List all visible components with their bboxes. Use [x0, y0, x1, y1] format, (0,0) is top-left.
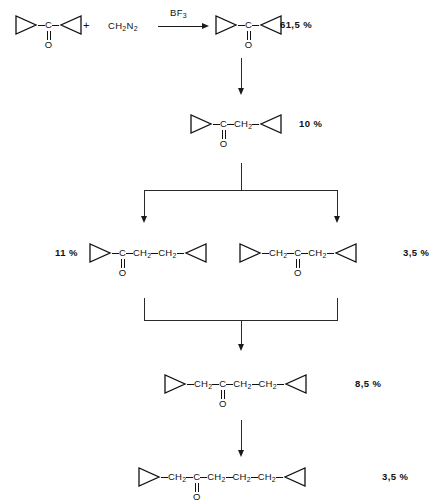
branch-left-shaft: [144, 190, 145, 218]
bond-line: [226, 477, 233, 478]
arrow-1-shaft: [241, 58, 242, 90]
coreactant-label: CH2N2: [108, 21, 138, 31]
product-3-structure: C O CH2 CH2: [88, 242, 208, 264]
yield-product-1: 61,5 %: [280, 20, 312, 30]
cyclopropyl-icon: [259, 113, 283, 135]
carbonyl-group: C O: [119, 248, 126, 258]
bond-line: [262, 253, 269, 254]
methylene-label: CH2: [233, 379, 251, 389]
methylene-label: CH2: [207, 472, 225, 482]
arrow-final-head: [238, 450, 244, 457]
yield-product-4: 3,5 %: [403, 248, 429, 258]
bond-line: [213, 124, 220, 125]
molecule-dicyclopropyl-ketone-start: C O: [14, 14, 83, 36]
yield-product-2: 10 %: [299, 119, 322, 129]
molecule-cyclopropyl-2-cyclopropylethyl-ketone: C O CH2 CH2: [88, 242, 208, 264]
carbonyl-group: C O: [220, 119, 227, 129]
bond-line: [327, 253, 334, 254]
methylene-label: CH2: [133, 248, 151, 258]
coreactant-diazomethane: CH2N2: [108, 21, 138, 31]
methylene-label: CH2: [168, 472, 186, 482]
oxygen-label: O: [294, 268, 301, 278]
methylene-label: CH2: [158, 248, 176, 258]
bond-line: [251, 477, 258, 478]
carbonyl-group: C O: [219, 379, 226, 389]
product-2-structure: C O CH2: [189, 113, 283, 135]
oxygen-label: O: [220, 139, 227, 149]
oxygen-label: O: [245, 40, 252, 50]
product-6-structure: CH2 C O CH2 CH2 CH2: [137, 466, 307, 488]
carbon-label: C: [193, 471, 200, 482]
bond-line: [112, 253, 119, 254]
molecule-dicyclopropyl-ketone: C O: [214, 14, 283, 36]
bond-line: [276, 477, 283, 478]
cyclopropyl-icon: [88, 242, 112, 264]
yield-product-5: 8,5 %: [355, 379, 381, 389]
cyclopropyl-icon: [238, 242, 262, 264]
cyclopropyl-icon: [14, 14, 38, 36]
branch-left-arrow-head: [141, 216, 147, 223]
bond-line: [252, 25, 259, 26]
bond-line: [301, 253, 308, 254]
cyclopropyl-icon: [284, 373, 308, 395]
bond-line: [151, 253, 158, 254]
yield-product-6: 3,5 %: [382, 472, 408, 482]
molecule-1-5-dicyclopropylpentan-2-one: CH2 C O CH2 CH2 CH2: [137, 466, 307, 488]
arrow-1-head: [238, 88, 244, 95]
branch-stem: [241, 163, 242, 190]
bond-line: [52, 25, 59, 26]
oxygen-label: O: [193, 492, 200, 502]
reaction-scheme-canvas: C O + CH2N2 BF3 C: [0, 0, 444, 502]
cyclopropyl-icon: [283, 466, 307, 488]
bond-line: [161, 477, 168, 478]
bond-line: [38, 25, 45, 26]
bond-line: [277, 384, 284, 385]
bond-line: [226, 384, 233, 385]
bond-line: [200, 477, 207, 478]
branch-right-arrow-head: [334, 216, 340, 223]
carbon-label: C: [245, 19, 252, 30]
carbonyl-group: C O: [294, 248, 301, 258]
carbonyl-group: C O: [193, 472, 200, 482]
arrow-final-shaft: [241, 420, 242, 452]
methylene-label: CH2: [259, 379, 277, 389]
methylene-label: CH2: [194, 379, 212, 389]
methylene-label: CH2: [308, 248, 326, 258]
methylene-label: CH2: [269, 248, 287, 258]
methylene-label: CH2: [258, 472, 276, 482]
reagent-label-bf3: BF3: [170, 8, 187, 18]
branch-bar: [144, 190, 338, 191]
bond-line: [187, 384, 194, 385]
starting-material-structure: C O: [14, 14, 83, 36]
plus-sign: +: [83, 20, 89, 31]
bond-line: [252, 384, 259, 385]
cyclopropyl-icon: [137, 466, 161, 488]
cyclopropyl-icon: [163, 373, 187, 395]
carbon-label: C: [294, 247, 301, 258]
yield-product-3: 11 %: [55, 248, 78, 258]
cyclopropyl-icon: [59, 14, 83, 36]
cyclopropyl-icon: [189, 113, 213, 135]
bond-line: [238, 25, 245, 26]
carbon-label: C: [219, 378, 226, 389]
oxygen-label: O: [119, 268, 126, 278]
cyclopropyl-icon: [184, 242, 208, 264]
oxygen-label: O: [45, 40, 52, 50]
carbon-label: C: [220, 118, 227, 129]
bond-line: [177, 253, 184, 254]
bond-line: [126, 253, 133, 254]
reaction-arrow-shaft: [158, 26, 203, 27]
merge-right-shaft: [337, 298, 338, 320]
cyclopropyl-icon: [334, 242, 358, 264]
merge-left-shaft: [144, 298, 145, 320]
plus-label: +: [83, 20, 89, 31]
reaction-arrow-head: [202, 23, 209, 29]
carbonyl-group: C O: [245, 20, 252, 30]
bond-line: [227, 124, 234, 125]
carbonyl-group: C O: [45, 20, 52, 30]
methylene-label: CH2: [233, 472, 251, 482]
merge-arrow-shaft: [241, 320, 242, 346]
product-1-structure: C O: [214, 14, 283, 36]
molecule-1-3-dicyclopropylacetone: CH2 C O CH2: [238, 242, 358, 264]
bond-line: [252, 124, 259, 125]
